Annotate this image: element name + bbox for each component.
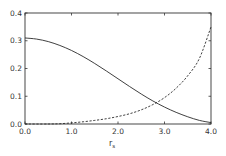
line-chart: 0.01.02.03.04.0 0.00.10.20.30.4 rs	[0, 0, 226, 156]
data-series	[25, 27, 211, 124]
y-tick-labels: 0.00.10.20.30.4	[10, 9, 22, 129]
y-tick-label: 0.1	[10, 92, 22, 101]
series-solid	[25, 38, 211, 123]
y-tick-label: 0.3	[10, 36, 22, 45]
x-tick-labels: 0.01.02.03.04.0	[19, 127, 217, 136]
x-tick-label: 3.0	[159, 127, 171, 136]
plot-frame	[25, 13, 211, 124]
x-tick-label: 2.0	[112, 127, 124, 136]
y-tick-label: 0.2	[10, 64, 22, 73]
x-tick-label: 4.0	[205, 127, 217, 136]
x-tick-label: 1.0	[66, 127, 78, 136]
y-tick-label: 0.0	[10, 120, 22, 129]
series-dashed	[25, 27, 211, 124]
y-tick-label: 0.4	[10, 9, 22, 18]
plot-border	[25, 13, 211, 124]
axis-ticks	[25, 13, 211, 124]
x-axis-label: rs	[109, 139, 115, 149]
